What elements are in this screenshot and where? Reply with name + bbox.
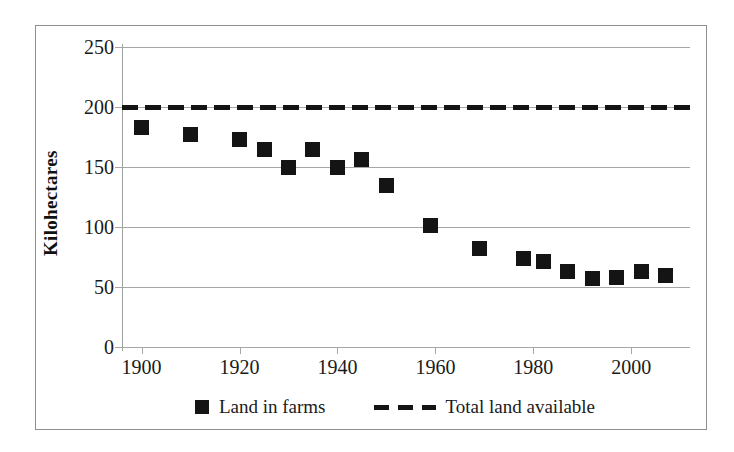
x-tick-1920 (240, 347, 241, 354)
y-axis-title: Kilohectares (40, 118, 68, 288)
y-tick-0 (115, 347, 123, 348)
x-tick-1980 (533, 347, 534, 354)
y-tick-label-50: 50 (44, 277, 114, 297)
x-tick-1940 (337, 347, 338, 354)
x-tick-label-1900: 1900 (97, 357, 187, 377)
legend-entry-land-in-farms: Land in farms (195, 396, 326, 418)
chart-figure: Kilohectares 050100150200250 19001920194… (0, 0, 734, 452)
legend-label-total-land-available: Total land available (446, 396, 596, 418)
data-point (257, 142, 272, 157)
data-point (609, 270, 624, 285)
data-point (281, 160, 296, 175)
x-tick-label-2000: 2000 (586, 357, 676, 377)
x-tick-label-1960: 1960 (390, 357, 480, 377)
gridline-150 (122, 167, 690, 168)
data-point (330, 160, 345, 175)
legend-entry-total-land-available: Total land available (374, 396, 596, 418)
chart-legend: Land in farms Total land available (160, 392, 630, 422)
x-tick-label-1940: 1940 (292, 357, 382, 377)
data-point (354, 152, 369, 167)
data-point (634, 264, 649, 279)
gridline-0 (122, 347, 690, 348)
gridline-100 (122, 227, 690, 228)
data-point (305, 142, 320, 157)
x-tick-2000 (631, 347, 632, 354)
x-tick-1960 (435, 347, 436, 354)
data-point (472, 241, 487, 256)
y-axis-line (122, 44, 123, 351)
series-total-land-available (122, 105, 690, 110)
y-tick-label-0: 0 (44, 337, 114, 357)
y-tick-label-100: 100 (44, 217, 114, 237)
gridline-50 (122, 287, 690, 288)
y-tick-250 (115, 47, 123, 48)
data-point (585, 271, 600, 286)
y-tick-100 (115, 227, 123, 228)
y-tick-50 (115, 287, 123, 288)
dashed-line-icon (374, 405, 436, 410)
data-point (536, 254, 551, 269)
data-point (379, 178, 394, 193)
data-point (516, 251, 531, 266)
square-marker-icon (195, 400, 209, 414)
data-point (183, 127, 198, 142)
x-tick-1900 (142, 347, 143, 354)
x-tick-label-1920: 1920 (195, 357, 285, 377)
gridline-250 (122, 47, 690, 48)
data-point (423, 218, 438, 233)
y-tick-150 (115, 167, 123, 168)
y-tick-label-150: 150 (44, 157, 114, 177)
y-tick-label-200: 200 (44, 97, 114, 117)
legend-label-land-in-farms: Land in farms (219, 396, 326, 418)
x-tick-label-1980: 1980 (488, 357, 578, 377)
data-point (560, 264, 575, 279)
data-point (134, 120, 149, 135)
data-point (658, 268, 673, 283)
data-point (232, 132, 247, 147)
y-tick-label-250: 250 (44, 37, 114, 57)
